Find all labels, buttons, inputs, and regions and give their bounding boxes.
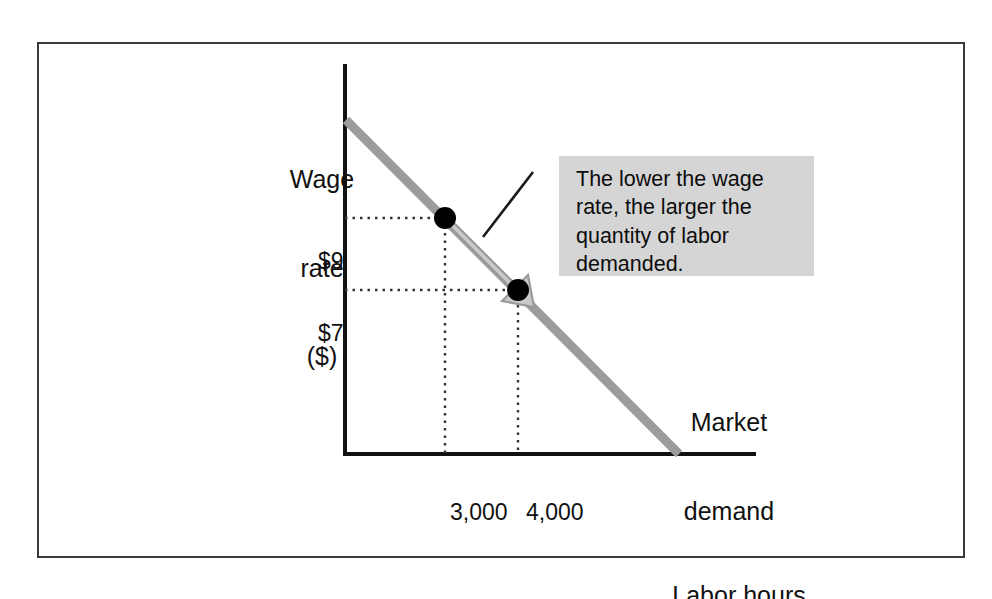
callout-text: The lower the wage rate, the larger the … bbox=[576, 165, 804, 279]
data-point-marker-7 bbox=[507, 279, 529, 301]
chart-plot-area bbox=[39, 44, 963, 556]
figure-frame: The lower the wage rate, the larger the … bbox=[37, 42, 965, 558]
market-demand-label-line-1: Market bbox=[639, 408, 819, 438]
callout-box: The lower the wage rate, the larger the … bbox=[559, 156, 814, 276]
x-tick-label-4000: 4,000 bbox=[526, 499, 584, 526]
y-tick-label-7: $7 bbox=[318, 320, 344, 347]
callout-leader-line bbox=[483, 172, 533, 237]
y-axis-title-line-1: Wage bbox=[272, 165, 372, 195]
x-tick-label-3000: 3,000 bbox=[450, 499, 508, 526]
figure-root: The lower the wage rate, the larger the … bbox=[0, 0, 992, 599]
data-point-marker-9 bbox=[434, 207, 456, 229]
x-axis-title: Labor hours per day bbox=[639, 522, 839, 599]
x-axis-title-line-1: Labor hours bbox=[639, 581, 839, 599]
y-tick-label-9: $9 bbox=[318, 248, 344, 275]
